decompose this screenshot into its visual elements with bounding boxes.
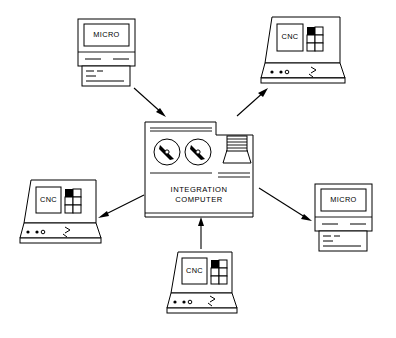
cnc-left-key-3 — [65, 197, 73, 205]
link-cnc-bottom — [198, 217, 204, 249]
cnc-top-right-dot-3 — [285, 70, 289, 74]
link-micro-right — [259, 188, 312, 221]
cnc-bottom-foot — [167, 308, 237, 313]
cnc-left-base — [20, 223, 101, 238]
micro-right-label: MICRO — [330, 195, 356, 204]
cnc-top-right-key-6 — [315, 43, 323, 51]
cnc-top-right-key-1 — [307, 27, 315, 35]
cnc-bottom-key-5 — [211, 276, 219, 284]
cnc-left-dot-3 — [41, 230, 45, 234]
cnc-bottom-base — [167, 293, 237, 308]
link-micro-top-left — [134, 88, 166, 117]
cnc-left-key-5 — [65, 205, 73, 213]
printer-paper-stack — [227, 136, 247, 151]
micro-top-left-label: MICRO — [93, 30, 119, 39]
cnc-bottom-dot-1 — [173, 300, 176, 303]
cnc-top-right-key-4 — [315, 35, 323, 43]
cnc-bottom-key-3 — [211, 268, 219, 276]
cnc-bottom-key-6 — [219, 276, 227, 284]
cnc-bottom-keypad-icon — [211, 260, 227, 284]
cnc-top-right-label: CNC — [281, 32, 298, 41]
cnc-top-right-foot — [261, 78, 345, 83]
node-micro-top-left[interactable]: MICRO — [78, 19, 135, 86]
cnc-bottom-key-2 — [219, 260, 227, 268]
printer-tray — [223, 150, 251, 163]
cnc-bottom-dot-3 — [188, 300, 192, 304]
tape-reel-right-icon — [185, 139, 211, 165]
tape-reel-right-hub — [196, 150, 200, 154]
integration-computer-node[interactable]: INTEGRATION COMPUTER — [145, 122, 253, 217]
link-line-cnc-left — [102, 195, 144, 216]
cnc-left-label: CNC — [40, 195, 57, 204]
tape-reel-left-hub — [165, 150, 169, 154]
cnc-left-dot-1 — [26, 230, 29, 233]
cnc-left-dot-2 — [35, 230, 38, 233]
cnc-bottom-key-4 — [219, 268, 227, 276]
hub-label-line1: INTEGRATION — [171, 185, 228, 194]
link-cnc-left — [98, 195, 144, 218]
cnc-top-right-base — [261, 63, 345, 78]
cnc-bottom-dot-2 — [182, 300, 185, 303]
node-cnc-bottom[interactable]: CNC — [167, 252, 237, 313]
printer-stack-icon — [223, 136, 251, 163]
cnc-left-key-6 — [73, 205, 81, 213]
node-cnc-left[interactable]: CNC — [20, 180, 101, 243]
cnc-bottom-key-1 — [211, 260, 219, 268]
diagram-canvas: INTEGRATION COMPUTER MICRO — [0, 0, 396, 338]
cnc-top-right-key-2 — [315, 27, 323, 35]
cnc-top-right-key-3 — [307, 35, 315, 43]
cnc-top-right-dot-1 — [270, 70, 273, 73]
cnc-top-right-key-5 — [307, 43, 315, 51]
link-line-micro-right — [259, 188, 308, 219]
node-cnc-top-right[interactable]: CNC — [261, 17, 345, 83]
node-micro-right[interactable]: MICRO — [315, 184, 372, 251]
hub-label-line2: COMPUTER — [175, 195, 222, 204]
tape-reel-left-icon — [154, 139, 180, 165]
link-cnc-top-right — [237, 88, 268, 116]
cnc-left-foot — [20, 238, 101, 243]
cnc-top-right-dot-2 — [279, 70, 282, 73]
cnc-left-key-4 — [73, 197, 81, 205]
cnc-left-key-2 — [73, 189, 81, 197]
arrow-head-cnc-bottom — [198, 217, 204, 226]
network-diagram: INTEGRATION COMPUTER MICRO — [0, 0, 396, 338]
cnc-bottom-label: CNC — [186, 266, 203, 275]
cnc-top-right-keypad-icon — [307, 27, 323, 51]
cnc-left-keypad-icon — [65, 189, 81, 213]
arrow-head-cnc-left — [98, 211, 109, 218]
cnc-left-key-1 — [65, 189, 73, 197]
